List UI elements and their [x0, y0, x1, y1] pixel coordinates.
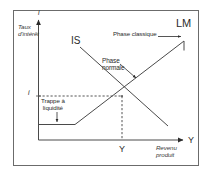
equilibrium-income-label: Y — [119, 145, 125, 154]
y-axis-title: Taux d'intérêt — [18, 24, 39, 37]
lm-curve — [39, 41, 185, 125]
equilibrium-point — [121, 95, 123, 97]
phase-normale-label: Phase normale — [102, 58, 124, 71]
y-axis-symbol-label: i — [38, 9, 39, 16]
is-curve-label: IS — [71, 36, 80, 47]
lm-curve-label: LM — [176, 18, 191, 30]
phase-classique-label: Phase classique — [113, 31, 157, 38]
x-axis-symbol-label: Y — [188, 136, 194, 145]
islm-diagram-figure: i Taux d'intérêt IS LM Phase classique P… — [0, 0, 210, 176]
trappe-liquidite-label: Trappe à liquidité — [41, 98, 65, 111]
equilibrium-rate-label: i — [28, 89, 29, 96]
x-axis-title: Revenu produit — [156, 145, 177, 158]
